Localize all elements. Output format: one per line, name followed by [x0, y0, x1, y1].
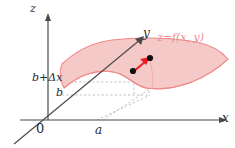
- surface-point-lower: [130, 68, 136, 74]
- origin-label: 0: [36, 122, 44, 135]
- surface-equation-label: z=f(x, y): [157, 32, 204, 43]
- z-axis-arrowhead: [45, 13, 51, 21]
- y-tick-label-b-plus-delta-x: b+Δx: [32, 72, 62, 83]
- z-axis-label: z: [30, 3, 36, 14]
- guide-a-slant-2: [97, 95, 150, 120]
- y-axis-label: y: [143, 27, 150, 39]
- x-axis-label: x: [222, 112, 229, 124]
- surface-point-upper: [147, 55, 153, 61]
- y-tick-label-b: b: [56, 87, 63, 98]
- figure-canvas: z y x 0 a b b+Δx z=f(x, y): [0, 0, 235, 148]
- x-tick-label-a: a: [95, 124, 102, 136]
